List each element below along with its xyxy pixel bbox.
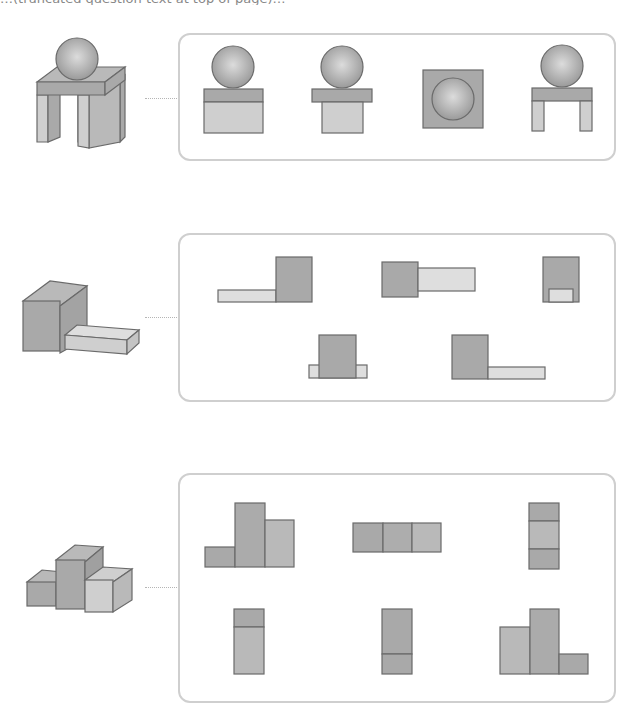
view-3-2[interactable] <box>352 522 447 557</box>
connector-line <box>145 317 177 318</box>
view-3-5[interactable] <box>381 608 416 678</box>
view-2-5[interactable] <box>451 334 551 384</box>
connector-line <box>145 98 177 99</box>
view-3-6[interactable] <box>498 608 593 678</box>
view-2-3[interactable] <box>542 256 582 306</box>
view-2-2[interactable] <box>381 261 481 301</box>
instruction-text-truncated: …(truncated question text at top of page… <box>0 0 639 5</box>
view-3-3[interactable] <box>528 502 563 572</box>
view-1-1[interactable] <box>202 45 266 141</box>
view-1-3[interactable] <box>422 69 486 133</box>
solid-stepped-columns <box>25 540 137 632</box>
solid-sphere-on-table <box>30 45 140 150</box>
view-2-4[interactable] <box>308 334 370 384</box>
view-3-4[interactable] <box>233 608 268 678</box>
solid-cuboid-with-slab <box>20 278 145 358</box>
views-box-1 <box>178 33 616 161</box>
views-box-2 <box>178 233 616 402</box>
views-box-3 <box>178 473 616 703</box>
view-3-1[interactable] <box>204 502 299 572</box>
view-2-1[interactable] <box>217 256 317 308</box>
connector-line <box>145 587 177 588</box>
view-1-2[interactable] <box>311 45 375 141</box>
view-1-4[interactable] <box>531 45 595 141</box>
